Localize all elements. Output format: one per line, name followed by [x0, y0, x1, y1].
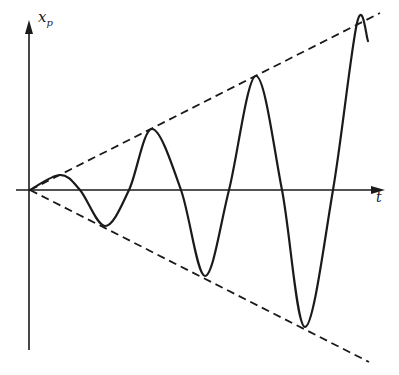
chart-canvas [0, 0, 399, 375]
x-axis-label: t [376, 189, 382, 205]
y-axis-label: xp [38, 8, 53, 28]
response-curve [30, 15, 368, 327]
upper-envelope-line [30, 13, 380, 190]
y-axis-arrow-icon [25, 20, 33, 34]
